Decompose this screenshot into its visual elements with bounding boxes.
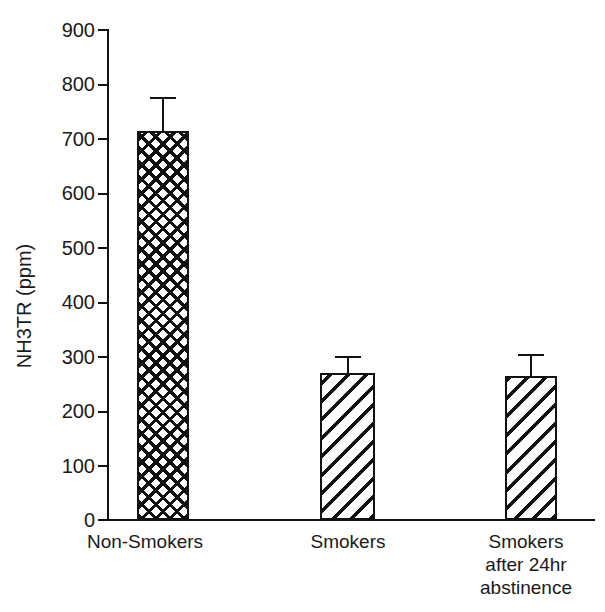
error-bar-stem-smokers-after-abstinence <box>530 355 532 376</box>
x-axis-label-smokers: Smokers <box>268 530 428 553</box>
y-tick-label: 300 <box>40 347 95 367</box>
y-axis-title-text: NH3TR (ppm) <box>13 244 36 368</box>
y-tick-label: 0 <box>40 510 95 530</box>
y-tick-label: 200 <box>40 401 95 421</box>
bar-smokers-after-abstinence <box>505 376 557 520</box>
y-tick-label: 500 <box>40 238 95 258</box>
x-axis-label-non-smokers: Non-Smokers <box>65 530 225 553</box>
error-bar-cap-smokers <box>335 356 361 358</box>
error-bar-cap-non-smokers <box>150 97 176 99</box>
bar-chart: NH3TR (ppm) 900 800 700 600 500 400 300 … <box>0 0 605 612</box>
y-tick-label: 400 <box>40 292 95 312</box>
bar-smokers <box>320 373 375 520</box>
error-bar-stem-smokers <box>347 357 349 373</box>
y-tick-label: 600 <box>40 183 95 203</box>
x-axis-label-smokers-after-abstinence: Smokers after 24hr abstinence <box>451 530 601 600</box>
error-bar-cap-smokers-after-abstinence <box>518 354 544 356</box>
y-tick-label: 800 <box>40 74 95 94</box>
y-tick-label: 900 <box>40 20 95 40</box>
y-tick-label: 100 <box>40 456 95 476</box>
plot-area <box>107 30 595 520</box>
bar-non-smokers <box>137 131 189 520</box>
y-tick-label: 700 <box>40 129 95 149</box>
error-bar-stem-non-smokers <box>162 98 164 131</box>
y-axis-tick-labels: 900 800 700 600 500 400 300 200 100 0 <box>40 0 95 612</box>
